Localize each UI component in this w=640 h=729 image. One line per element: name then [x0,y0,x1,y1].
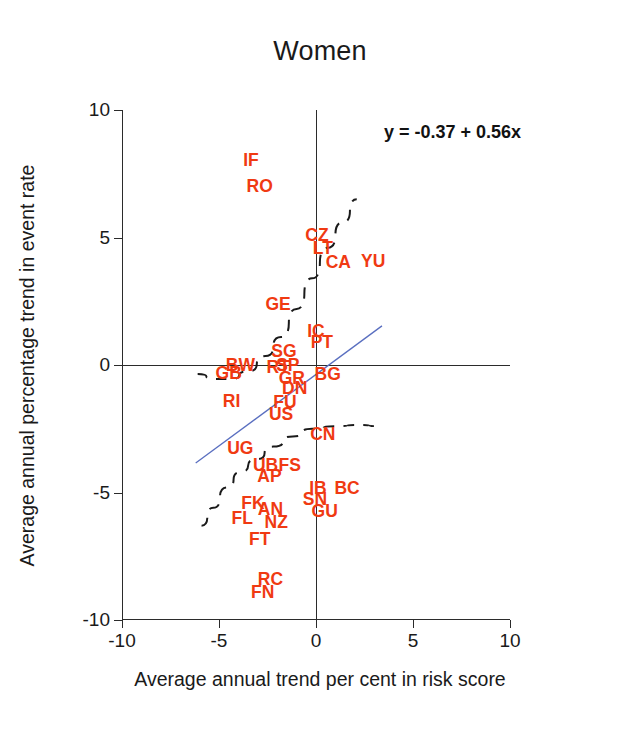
y-tick-mark [114,365,122,366]
data-point-label: US [269,406,293,424]
data-point-label: YU [361,253,385,271]
x-tick-label: -10 [108,630,135,652]
data-point-label: GU [312,503,338,521]
x-tick-mark [122,620,123,628]
y-tick-label: 5 [99,227,110,249]
x-tick-label: 10 [499,630,520,652]
data-point-label: GE [266,296,291,314]
y-tick-label: 0 [99,354,110,376]
scatter-plot-figure: Women y = -0.37 + 0.56x Average annual p… [0,0,640,729]
data-point-label: BG [315,366,341,384]
data-point-label: CN [310,426,335,444]
data-point-label: FT [249,531,270,549]
data-point-label: BC [334,480,359,498]
x-tick-mark [219,620,220,628]
y-tick-mark [114,493,122,494]
y-tick-label: -5 [93,482,110,504]
x-tick-label: 0 [311,630,322,652]
y-axis-label-text: Average annual percentage trend in event… [17,164,40,566]
x-tick-label: 5 [408,630,419,652]
x-tick-label: -5 [211,630,228,652]
data-point-label: FL [232,511,253,529]
chart-title: Women [0,36,640,67]
data-point-label: FS [279,457,301,475]
data-point-label: CA [326,254,351,272]
x-tick-mark [413,620,414,628]
y-tick-label: 10 [89,99,110,121]
x-tick-mark [316,620,317,628]
x-tick-mark [510,620,511,628]
y-tick-mark [114,238,122,239]
data-point-label: UG [227,440,253,458]
data-point-label: RI [223,393,241,411]
data-point-label: RO [247,178,273,196]
y-tick-mark [114,110,122,111]
data-point-label: FN [251,584,274,602]
x-axis-label: Average annual trend per cent in risk sc… [0,668,640,691]
data-point-label: IF [243,152,259,170]
y-axis-label: Average annual percentage trend in event… [14,110,42,620]
plot-area: 1050-5-10 -10-50510 IFROCZLTCAYUGEICPTSG… [122,110,510,620]
y-tick-label: -10 [83,609,110,631]
y-tick-mark [114,620,122,621]
data-point-label: GB [216,365,242,383]
data-point-label: PT [311,335,333,353]
